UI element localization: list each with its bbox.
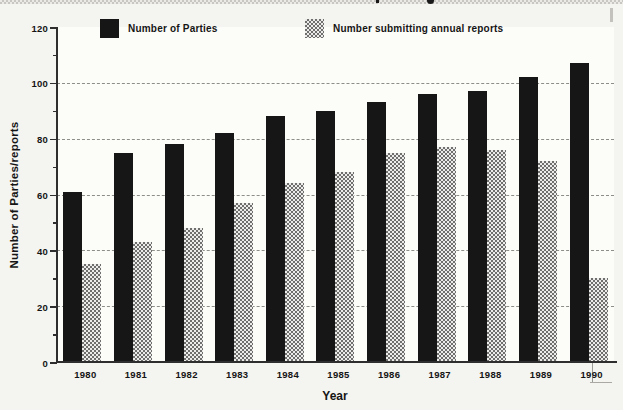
x-tick-label-1985: 1985 <box>327 369 349 380</box>
y-major-tick <box>50 27 57 29</box>
bar-parties-1983 <box>215 133 234 362</box>
scan-artifact <box>610 8 613 22</box>
bar-parties-1980 <box>63 192 82 362</box>
x-tick-label-1986: 1986 <box>378 369 400 380</box>
bar-group-1983 <box>209 27 260 362</box>
bar-reports-1985 <box>335 172 354 362</box>
bar-parties-1990 <box>570 63 589 362</box>
bar-reports-1982 <box>184 228 203 362</box>
y-minor-tick <box>53 55 57 57</box>
y-tick-label: 20 <box>14 301 48 312</box>
bar-reports-1981 <box>133 242 152 362</box>
bar-parties-1988 <box>468 91 487 362</box>
bar-reports-1986 <box>386 153 405 362</box>
legend-label-reports: Number submitting annual reports <box>333 23 503 34</box>
x-tick-label-1990: 1990 <box>581 369 603 380</box>
x-tick-label-1980: 1980 <box>74 369 96 380</box>
cropped-title-fragment <box>376 0 379 3</box>
scanned-bar-chart-page: 0204060801001201980198119821983198419851… <box>0 0 623 410</box>
bar-group-1985 <box>310 27 361 362</box>
y-minor-tick <box>53 222 57 224</box>
y-major-tick <box>50 83 57 85</box>
bar-parties-1985 <box>316 111 335 362</box>
legend-swatch-reports <box>305 19 324 38</box>
y-tick-label: 120 <box>14 22 48 33</box>
x-tick-label-1989: 1989 <box>530 369 552 380</box>
bar-group-1989 <box>513 27 564 362</box>
bar-reports-1987 <box>437 147 456 362</box>
x-axis-title: Year <box>322 389 347 403</box>
bar-parties-1984 <box>266 116 285 362</box>
x-tick-label-1984: 1984 <box>277 369 299 380</box>
y-tick-label: 0 <box>14 357 48 368</box>
bar-reports-1989 <box>538 161 557 362</box>
bar-group-1988 <box>462 27 513 362</box>
x-tick-label-1983: 1983 <box>226 369 248 380</box>
y-axis-title: Number of Parties/reports <box>8 122 20 269</box>
y-minor-tick <box>53 334 57 336</box>
y-major-tick <box>50 362 57 364</box>
y-major-tick <box>50 306 57 308</box>
y-major-tick <box>50 139 57 141</box>
legend-swatch-parties <box>100 19 119 38</box>
y-major-tick <box>50 250 57 252</box>
bar-group-1981 <box>108 27 159 362</box>
y-tick-label: 100 <box>14 78 48 89</box>
x-tick-label-1987: 1987 <box>429 369 451 380</box>
scan-texture-strip <box>0 0 623 4</box>
bar-reports-1984 <box>285 183 304 362</box>
bar-group-1987 <box>411 27 462 362</box>
x-axis-line <box>56 361 617 363</box>
legend-label-parties: Number of Parties <box>128 23 218 34</box>
bar-parties-1986 <box>367 102 386 362</box>
bar-group-1990 <box>563 27 614 362</box>
bar-reports-1988 <box>487 150 506 362</box>
scan-artifact <box>590 382 612 383</box>
x-tick-label-1982: 1982 <box>175 369 197 380</box>
x-tick-label-1988: 1988 <box>479 369 501 380</box>
bar-group-1982 <box>158 27 209 362</box>
bar-group-1984 <box>260 27 311 362</box>
y-minor-tick <box>53 167 57 169</box>
bar-parties-1981 <box>114 153 133 362</box>
bar-group-1980 <box>57 27 108 362</box>
bar-parties-1987 <box>418 94 437 362</box>
x-tick-label-1981: 1981 <box>125 369 147 380</box>
bar-reports-1990 <box>589 278 608 362</box>
y-major-tick <box>50 195 57 197</box>
bar-reports-1980 <box>82 264 101 362</box>
bar-group-1986 <box>361 27 412 362</box>
y-minor-tick <box>53 111 57 113</box>
bar-reports-1983 <box>234 203 253 362</box>
bar-parties-1982 <box>165 144 184 362</box>
y-minor-tick <box>53 278 57 280</box>
bar-parties-1989 <box>519 77 538 362</box>
